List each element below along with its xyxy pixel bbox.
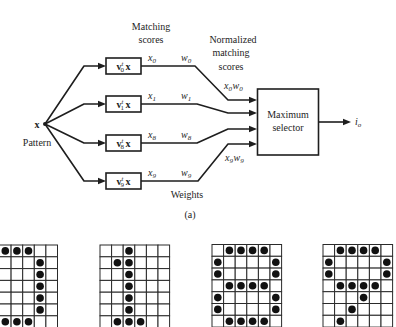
- input-symbol: x: [35, 119, 40, 130]
- grid-cell: [258, 268, 270, 280]
- grid-cell: [100, 316, 112, 327]
- grid-cell: [247, 268, 259, 280]
- grid-cell: [100, 245, 112, 257]
- pixel-dot: [25, 247, 33, 255]
- grid-cell: [270, 280, 282, 292]
- pixel-dot: [36, 294, 44, 302]
- grid-cell: [46, 280, 58, 292]
- grid-cell: [381, 315, 393, 327]
- grid-cell: [135, 304, 147, 316]
- weight-label-9: w9: [181, 167, 192, 180]
- pixel-dot: [226, 247, 234, 255]
- grid-cell: [369, 256, 381, 268]
- branch-1: vt1x x1 w1: [45, 90, 257, 124]
- normalized-product-9: x9w9: [224, 152, 244, 165]
- grid-cell: [235, 304, 247, 316]
- grid-cell: [112, 280, 124, 292]
- pixel-dot: [260, 282, 268, 290]
- pixel-dot: [337, 247, 345, 255]
- grid-cell: [46, 316, 58, 327]
- grid-cell: [46, 269, 58, 281]
- grid-cell: [381, 245, 393, 257]
- pixel-dot: [214, 258, 222, 266]
- pixel-dot: [137, 318, 145, 326]
- grid-cell: [146, 280, 158, 292]
- arrow-icon: [98, 63, 106, 69]
- pixel-dot: [325, 258, 333, 266]
- pixel-dot: [249, 317, 257, 325]
- grid-cell: [358, 256, 370, 268]
- grid-cell: [358, 304, 370, 316]
- grid-cell: [358, 315, 370, 327]
- grid-cell: [158, 304, 170, 316]
- pixel-dot: [125, 306, 133, 314]
- grid-cell: [146, 292, 158, 304]
- grid-cell: [369, 304, 381, 316]
- grid-cell: [112, 269, 124, 281]
- grid-cell: [247, 304, 259, 316]
- grid-cell: [335, 292, 347, 304]
- grid-cell: [247, 256, 259, 268]
- grid-cell: [235, 292, 247, 304]
- grid-cell: [247, 292, 259, 304]
- pixel-dot: [360, 282, 368, 290]
- pixel-dot: [383, 258, 391, 266]
- grid-cell: [135, 269, 147, 281]
- pixel-dot: [36, 306, 44, 314]
- grid-cell: [323, 245, 335, 257]
- output-label: io: [355, 116, 362, 129]
- pixel-dot: [13, 247, 21, 255]
- grid-cell: [212, 315, 224, 327]
- grid-cell: [135, 280, 147, 292]
- pixel-dot: [348, 247, 356, 255]
- grid-cell: [46, 304, 58, 316]
- pixel-dot: [348, 282, 356, 290]
- normalized-label-line2: matching: [212, 47, 249, 58]
- pattern-label: Pattern: [23, 137, 51, 148]
- grid-cell: [381, 292, 393, 304]
- pixel-dot: [260, 317, 268, 325]
- weight-label-1: w1: [181, 90, 191, 103]
- grid-cell: [23, 304, 35, 316]
- grid-cell: [0, 304, 11, 316]
- grid-cell: [135, 245, 147, 257]
- arrow-icon: [98, 178, 106, 184]
- grid-cell: [34, 316, 46, 327]
- pixel-dot: [2, 247, 10, 255]
- selector-label-line2: selector: [272, 122, 304, 133]
- pixel-dot: [383, 270, 391, 278]
- grid-cell: [224, 268, 236, 280]
- pixel-dot: [371, 247, 379, 255]
- grid-cell: [100, 292, 112, 304]
- matching-scores-label-line2: scores: [139, 34, 164, 45]
- figure-caption: (a): [184, 209, 195, 221]
- grid-cell: [369, 268, 381, 280]
- grid-cell: [112, 245, 124, 257]
- grid-cell: [146, 269, 158, 281]
- grid-cell: [381, 280, 393, 292]
- pixel-dot: [325, 270, 333, 278]
- pattern-grid-0: [0, 245, 58, 327]
- grid-cell: [358, 268, 370, 280]
- score-wire-8: [141, 129, 249, 143]
- normalized-product-0: x0w0: [223, 80, 243, 93]
- grid-cell: [323, 292, 335, 304]
- pixel-dot: [125, 318, 133, 326]
- grid-cell: [224, 256, 236, 268]
- pixel-dot: [2, 318, 10, 326]
- arrow-icon: [343, 119, 351, 125]
- grid-cell: [224, 304, 236, 316]
- grid-cell: [100, 304, 112, 316]
- grid-cell: [46, 292, 58, 304]
- grid-cell: [258, 292, 270, 304]
- grid-cell: [158, 245, 170, 257]
- pixel-dot: [272, 306, 280, 314]
- score-label-9: x9: [147, 167, 156, 180]
- grid-cell: [0, 269, 11, 281]
- grid-cell: [112, 292, 124, 304]
- grid-cell: [100, 280, 112, 292]
- pixel-dot: [125, 271, 133, 279]
- grid-cell: [11, 269, 23, 281]
- arrow-icon: [249, 110, 257, 116]
- pixel-dot: [337, 317, 345, 325]
